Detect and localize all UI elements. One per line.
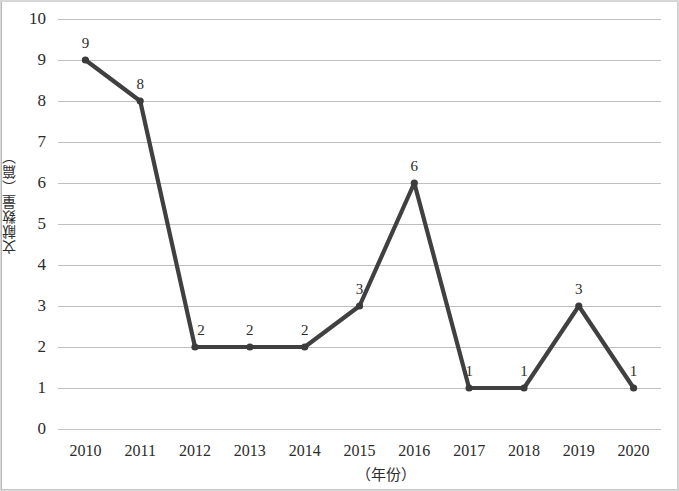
x-axis-tick-label: 2011: [110, 442, 170, 460]
data-point-label: 2: [181, 322, 221, 338]
data-point-label: 9: [65, 35, 105, 51]
data-point-marker: [411, 179, 418, 186]
x-axis-tick-label: 2012: [165, 442, 225, 460]
x-axis-tick-label: 2019: [549, 442, 609, 460]
data-point-label: 6: [394, 158, 434, 174]
data-point-label: 3: [340, 281, 380, 297]
series-polyline: [85, 60, 633, 388]
data-point-marker: [246, 343, 253, 350]
x-axis-tick-label: 2014: [275, 442, 335, 460]
data-point-label: 3: [559, 281, 599, 297]
x-axis-tick-label: 2015: [330, 442, 390, 460]
data-point-marker: [630, 384, 637, 391]
x-axis-tick-label: 2017: [439, 442, 499, 460]
x-axis-tick-label: 2020: [604, 442, 664, 460]
data-point-marker: [191, 343, 198, 350]
data-point-label: 2: [230, 322, 270, 338]
data-point-label: 1: [614, 363, 654, 379]
data-point-marker: [466, 384, 473, 391]
x-axis-tick-label: 2013: [220, 442, 280, 460]
data-point-marker: [137, 97, 144, 104]
data-point-label: 1: [504, 363, 544, 379]
data-point-marker: [520, 384, 527, 391]
line-chart-figure: 文献数量（篇） 012345678910 98222361131 2010201…: [0, 0, 679, 491]
data-point-label: 8: [120, 76, 160, 92]
data-point-marker: [575, 302, 582, 309]
x-axis-tick-label: 2010: [55, 442, 115, 460]
data-point-marker: [356, 302, 363, 309]
data-point-label: 2: [285, 322, 325, 338]
data-point-marker: [82, 56, 89, 63]
x-axis-title: （年份）: [336, 467, 436, 484]
x-axis-tick-label: 2016: [384, 442, 444, 460]
data-point-marker: [301, 343, 308, 350]
x-axis-tick-label: 2018: [494, 442, 554, 460]
data-point-label: 1: [449, 363, 489, 379]
data-series-line: [1, 1, 679, 491]
